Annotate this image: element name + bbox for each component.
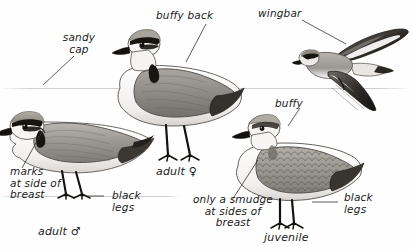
label-black-legs-right: black legs xyxy=(344,192,390,215)
label-only-a-smudge-at-sides-of-breast: only a smudge at sides of breast xyxy=(178,194,288,229)
label-buffy-back: buffy back xyxy=(156,10,213,22)
field-guide-plate: sandy cap buffy back wingbar buffy marks… xyxy=(0,0,412,250)
caption-adult-female: adult ♀ xyxy=(156,166,197,178)
label-wingbar: wingbar xyxy=(258,8,302,20)
label-black-legs-left: black legs xyxy=(112,190,158,213)
label-marks-at-side-of-breast: marks at side of breast xyxy=(10,166,90,201)
caption-adult-male: adult ♂ xyxy=(38,226,81,238)
caption-juvenile: juvenile xyxy=(264,232,309,244)
label-sandy-cap: sandy cap xyxy=(48,32,110,55)
label-buffy: buffy xyxy=(275,98,303,110)
